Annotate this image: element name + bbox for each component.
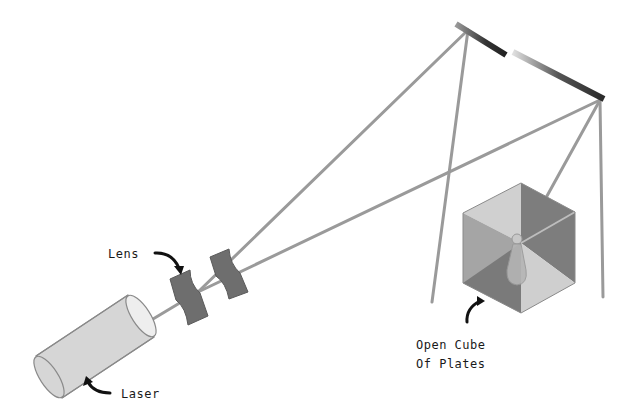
mirror-2	[513, 52, 604, 99]
lens-2	[210, 249, 248, 299]
lens-1	[170, 270, 208, 325]
laser	[28, 291, 161, 402]
beam-mirror-2-down	[600, 100, 603, 297]
open-cube-of-plates	[463, 183, 575, 313]
mirror-1	[456, 24, 506, 55]
laser-label: Laser	[121, 387, 160, 401]
cube-label-line-2: Of Plates	[416, 357, 486, 371]
beam-lens-to-mirror-1	[198, 30, 468, 292]
cube-label-line-1: Open Cube	[416, 338, 486, 352]
laser-arrow-icon	[88, 382, 110, 393]
optics-diagram: Lens Laser Open Cube Of Plates	[0, 0, 635, 419]
lens-arrow-icon	[155, 253, 179, 268]
lens-label: Lens	[108, 247, 139, 261]
